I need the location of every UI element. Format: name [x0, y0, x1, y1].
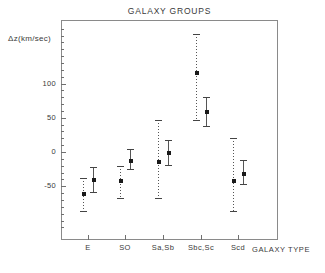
- errorbar-cap-upper: [117, 166, 124, 167]
- y-axis-minor-tick: [61, 90, 64, 91]
- x-axis-tick: [201, 235, 202, 240]
- y-axis-minor-tick: [61, 159, 64, 160]
- errorbar-stem: [233, 138, 234, 212]
- y-axis-minor-tick: [61, 125, 64, 126]
- x-axis-tick: [238, 235, 239, 240]
- y-axis-minor-tick: [61, 221, 64, 222]
- errorbar-stem: [196, 34, 197, 121]
- y-axis-major-tick: [61, 84, 66, 85]
- errorbar-scd-s2: [243, 160, 244, 185]
- galaxy-groups-figure: GALAXY GROUPS Δz(km/sec) -50050100ESOSa,…: [0, 0, 325, 273]
- errorbar-cap-upper: [230, 138, 237, 139]
- data-marker-e-s2: [92, 178, 96, 182]
- y-axis-major-tick: [61, 118, 66, 119]
- data-marker-sa-sb-s1: [157, 160, 161, 164]
- y-axis-minor-tick: [61, 131, 64, 132]
- x-axis-tick-label-e: E: [85, 243, 90, 252]
- errorbar-scd-s1: [233, 138, 234, 212]
- chart-title: GALAXY GROUPS: [61, 6, 278, 16]
- errorbar-cap-lower: [117, 198, 124, 199]
- errorbar-sbc-sc-s2: [206, 97, 207, 126]
- errorbar-cap-upper: [127, 149, 134, 150]
- y-axis-minor-tick: [61, 63, 64, 64]
- errorbar-cap-lower: [203, 126, 210, 127]
- y-axis-label: Δz(km/sec): [8, 34, 51, 43]
- errorbar-sa-sb-s2: [168, 140, 169, 166]
- x-axis-tick-label-scd: Scd: [231, 243, 245, 252]
- data-marker-scd-s1: [232, 179, 236, 183]
- y-axis-minor-tick: [61, 56, 64, 57]
- x-axis-tick: [163, 235, 164, 240]
- data-marker-sbc-sc-s1: [195, 71, 199, 75]
- y-axis-major-tick: [61, 186, 66, 187]
- data-marker-so-s1: [119, 179, 123, 183]
- errorbar-sbc-sc-s1: [196, 34, 197, 121]
- errorbar-cap-upper: [203, 97, 210, 98]
- y-axis-minor-tick: [61, 42, 64, 43]
- y-axis-tick-label: 0: [20, 147, 56, 156]
- x-axis-tick-label-sbc-sc: Sbc,Sc: [188, 243, 214, 252]
- y-axis-minor-tick: [61, 173, 64, 174]
- data-marker-so-s2: [129, 159, 133, 163]
- errorbar-cap-upper: [90, 167, 97, 168]
- data-marker-scd-s2: [242, 172, 246, 176]
- errorbar-cap-lower: [80, 211, 87, 212]
- y-axis-tick-label: 100: [20, 79, 56, 88]
- errorbar-cap-lower: [127, 169, 134, 170]
- y-axis-minor-tick: [61, 166, 64, 167]
- data-marker-sa-sb-s2: [167, 151, 171, 155]
- y-axis-minor-tick: [61, 227, 64, 228]
- y-axis-minor-tick: [61, 179, 64, 180]
- y-axis-tick-label: 50: [20, 113, 56, 122]
- data-marker-sbc-sc-s2: [205, 110, 209, 114]
- x-axis-tick: [125, 235, 126, 240]
- y-axis-minor-tick: [61, 145, 64, 146]
- data-marker-e-s1: [82, 192, 86, 196]
- y-axis-minor-tick: [61, 207, 64, 208]
- y-axis-minor-tick: [61, 29, 64, 30]
- y-axis-minor-tick: [61, 49, 64, 50]
- errorbar-so-s2: [130, 149, 131, 171]
- y-axis-minor-tick: [61, 77, 64, 78]
- y-axis-minor-tick: [61, 111, 64, 112]
- x-axis-tick-label-sa-sb: Sa,Sb: [152, 243, 174, 252]
- errorbar-cap-lower: [155, 198, 162, 199]
- errorbar-cap-lower: [240, 184, 247, 185]
- errorbar-cap-lower: [193, 120, 200, 121]
- y-axis-minor-tick: [61, 200, 64, 201]
- y-axis-minor-tick: [61, 36, 64, 37]
- y-axis-minor-tick: [61, 214, 64, 215]
- plot-frame: [61, 20, 278, 240]
- errorbar-cap-upper: [193, 34, 200, 35]
- x-axis-label: GALAXY TYPE: [252, 245, 310, 254]
- errorbar-cap-upper: [155, 120, 162, 121]
- errorbar-so-s1: [120, 166, 121, 199]
- errorbar-cap-lower: [165, 165, 172, 166]
- y-axis-minor-tick: [61, 138, 64, 139]
- errorbar-sa-sb-s1: [158, 120, 159, 198]
- y-axis-minor-tick: [61, 193, 64, 194]
- y-axis-minor-tick: [61, 70, 64, 71]
- x-axis-tick-label-so: SO: [119, 243, 131, 252]
- y-axis-major-tick: [61, 152, 66, 153]
- y-axis-minor-tick: [61, 104, 64, 105]
- errorbar-cap-lower: [230, 211, 237, 212]
- errorbar-e-s1: [83, 178, 84, 212]
- errorbar-cap-upper: [80, 178, 87, 179]
- y-axis-minor-tick: [61, 97, 64, 98]
- errorbar-e-s2: [93, 167, 94, 193]
- errorbar-cap-upper: [165, 140, 172, 141]
- errorbar-cap-upper: [240, 160, 247, 161]
- x-axis-tick: [88, 235, 89, 240]
- y-axis-tick-label: -50: [20, 181, 56, 190]
- errorbar-cap-lower: [90, 192, 97, 193]
